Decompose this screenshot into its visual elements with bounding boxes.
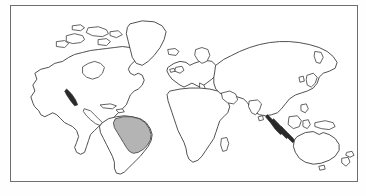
region-iceland bbox=[168, 49, 179, 56]
region-sulawesi bbox=[303, 120, 310, 129]
region-australia bbox=[293, 132, 339, 165]
region-canadian-arctic-1 bbox=[67, 34, 85, 44]
region-new-guinea bbox=[315, 121, 335, 130]
map-frame-border bbox=[10, 5, 358, 182]
world-map-figure bbox=[0, 0, 366, 196]
region-madagascar bbox=[221, 137, 229, 151]
region-canadian-arctic-2 bbox=[87, 27, 109, 37]
region-philippines bbox=[301, 104, 308, 113]
region-africa bbox=[167, 88, 230, 162]
region-new-zealand-north bbox=[346, 151, 354, 157]
region-europe bbox=[167, 60, 218, 87]
region-korea bbox=[299, 76, 304, 82]
region-lesser-sunda bbox=[279, 127, 295, 143]
world-map-graphic bbox=[11, 6, 357, 181]
region-sri-lanka bbox=[259, 116, 264, 121]
region-canadian-arctic-6 bbox=[110, 31, 122, 38]
region-borneo bbox=[288, 116, 301, 129]
region-canadian-arctic-5 bbox=[98, 39, 110, 46]
region-tasmania bbox=[319, 165, 325, 170]
region-canadian-arctic-3 bbox=[73, 25, 85, 31]
region-new-zealand-south bbox=[342, 157, 350, 166]
region-ireland bbox=[170, 68, 175, 72]
